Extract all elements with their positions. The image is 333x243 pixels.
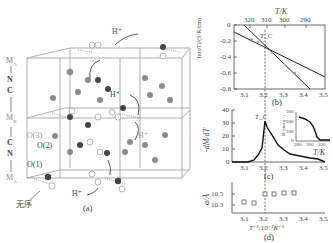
panel-d-y-axis-label: a/Å [202,194,211,205]
panel-d-y-tick: 10.5 [211,190,223,198]
panel-d-x-tick: 3.5 [319,215,328,223]
panel-d-x-tick: 3.4 [299,215,308,223]
panel-d-y-tick: 10.3 [211,201,223,209]
panel-d-x-axis-label: T⁻¹/10⁻³K⁻¹ [249,224,284,232]
panel-d-plot [0,0,333,243]
panel-d-x-tick: 3.1 [240,215,249,223]
panel-d-x-tick: 3.3 [279,215,288,223]
panel-d-caption: (d) [264,232,274,242]
panel-d-x-tick: 3.2 [259,215,268,223]
